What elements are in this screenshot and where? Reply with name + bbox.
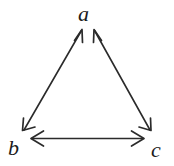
node-label-c: c xyxy=(151,139,161,161)
edge-b-a-line xyxy=(24,31,82,131)
edge-a-c xyxy=(94,30,152,131)
edge-b-c xyxy=(31,131,144,146)
node-label-a: a xyxy=(78,3,89,25)
edge-b-a xyxy=(23,30,83,131)
edge-a-c-line xyxy=(95,31,151,131)
node-label-b: b xyxy=(8,137,19,159)
triangle-diagram: a b c xyxy=(0,0,174,166)
